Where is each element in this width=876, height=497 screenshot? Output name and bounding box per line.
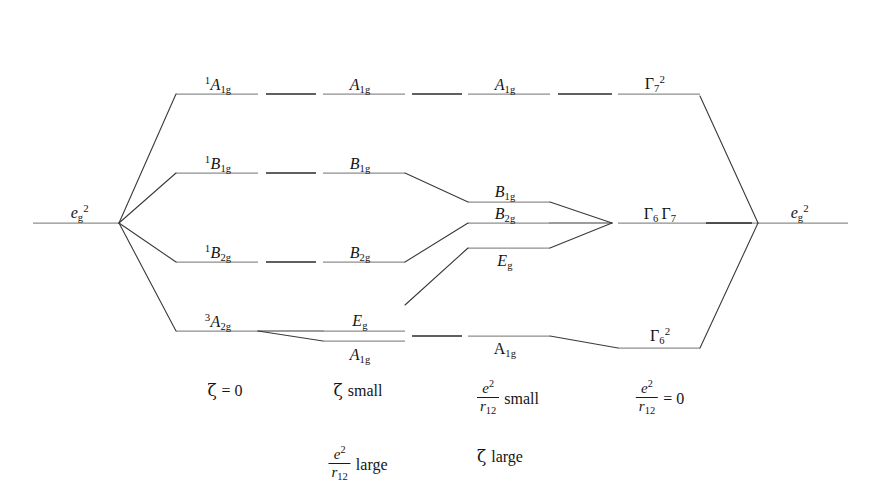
level-label-e-G7: Γ72 — [645, 76, 666, 92]
corr-c-B1g-to-d-B1g — [405, 173, 468, 202]
caption-b: ζ= 0 — [207, 382, 242, 399]
fraction-e2-over-r12: e2r12 — [636, 381, 658, 414]
level-label-c-A1g-b: A1g — [350, 347, 371, 363]
level-label-d-A1g-b: A1g — [494, 341, 517, 357]
level-label-d-A1g: A1g — [495, 77, 516, 93]
diagram-canvas — [0, 0, 876, 497]
zeta-symbol: ζ — [334, 382, 343, 399]
caption-e: e2r12= 0 — [636, 382, 684, 415]
caption-d-1: e2r12small — [477, 382, 539, 415]
fraction-e2-over-r12: e2r12 — [328, 447, 350, 480]
caption-d-2: ζlarge — [477, 448, 523, 465]
level-label-c-A1g: A1g — [350, 77, 371, 93]
merge-d-B1g-to-e — [550, 202, 612, 223]
level-label-d-B1g: B1g — [495, 184, 516, 200]
caption-text: small — [348, 383, 383, 399]
level-label-c-B2g: B2g — [350, 245, 371, 261]
fan-a-to-b-B2g — [119, 223, 176, 262]
level-label-e-G6G7: Γ6 Γ7 — [644, 206, 677, 222]
split-b-A2g-to-c-A1g — [258, 331, 323, 341]
caption-text: large — [356, 457, 388, 473]
level-label-b-A2g: 3A2g — [205, 314, 232, 330]
level-label-b-A1g: 1A1g — [205, 77, 232, 93]
corr-e-G6sq-to-f — [700, 223, 758, 348]
caption-c-1: ζsmall — [334, 382, 383, 399]
zeta-symbol: ζ — [207, 382, 216, 399]
caption-text: small — [504, 391, 539, 407]
level-label-d-Eg: Eg — [497, 253, 512, 269]
level-label-b-B2g: 1B2g — [205, 245, 232, 261]
level-label-d-B2g: B2g — [495, 206, 516, 222]
caption-c-2: e2r12large — [328, 448, 387, 481]
level-label-b-B1g: 1B1g — [205, 156, 232, 172]
fraction-e2-over-r12: e2r12 — [477, 381, 499, 414]
zeta-symbol: ζ — [477, 448, 486, 465]
energy-level-diagram: eg21A1g1B1g1B2g3A2gA1gB1gB2gEgA1gA1gB1gB… — [0, 0, 876, 497]
caption-text: = 0 — [222, 383, 243, 399]
level-label-e-G6sq: Γ62 — [650, 328, 670, 344]
fan-a-to-b-B1g — [119, 173, 176, 223]
corr-e-G7-to-f — [700, 96, 758, 223]
corr-d-A1g-to-e-G6sq — [550, 336, 618, 348]
level-label-f-eg2: eg2 — [791, 205, 810, 221]
level-label-a-eg2: eg2 — [71, 205, 90, 221]
level-label-c-Eg: Eg — [352, 313, 367, 329]
fan-a-to-b-A1g — [119, 94, 176, 223]
caption-text: = 0 — [663, 391, 684, 407]
merge-d-Eg-to-e — [550, 223, 612, 248]
caption-text: large — [491, 449, 523, 465]
level-label-c-B1g: B1g — [350, 156, 371, 172]
level-line-group — [33, 94, 848, 348]
fan-a-to-b-A2g — [119, 223, 176, 331]
